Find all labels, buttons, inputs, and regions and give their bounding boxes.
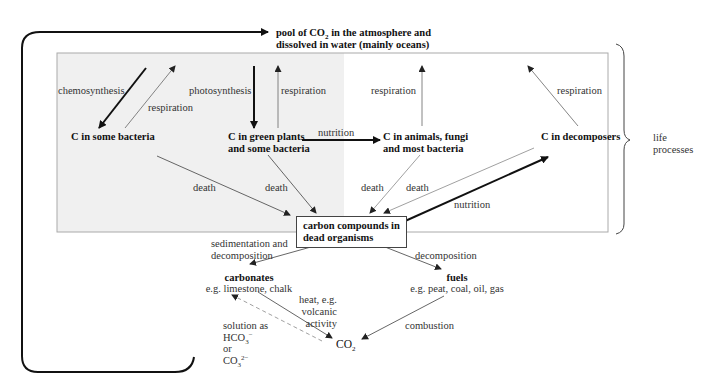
sedimentation-line2: decomposition	[211, 250, 273, 261]
animals-line2: and most bacteria	[383, 143, 464, 154]
solution-or: or	[223, 343, 232, 354]
label-respiration-bacteria: respiration	[148, 102, 193, 114]
label-death-decomposers: death	[406, 182, 429, 194]
green-plants-line2: and some bacteria	[228, 143, 310, 154]
label-death-bacteria: death	[193, 182, 216, 194]
node-co2: CO2	[336, 338, 355, 350]
life-line2: processes	[653, 144, 693, 155]
label-nutrition-decomposers: nutrition	[454, 199, 490, 211]
label-solution: solution as HCO3− or CO32−	[223, 320, 268, 366]
label-respiration-decomposers: respiration	[557, 85, 602, 97]
dead-organisms-box: carbon compounds in dead organisms	[296, 216, 407, 248]
pool-text-line2: dissolved in water (mainly oceans)	[276, 39, 429, 50]
co2-subscript: 2	[352, 345, 356, 353]
co3-subscript: 3	[238, 361, 242, 369]
label-heat: heat, e.g. volcanic activity	[295, 294, 337, 330]
label-respiration-plants: respiration	[281, 85, 326, 97]
animals-line1: C in animals, fungi	[383, 131, 468, 142]
pool-text: pool of CO	[276, 27, 325, 38]
label-photosynthesis: photosynthesis	[189, 85, 251, 97]
node-animals: C in animals, fungi and most bacteria	[383, 131, 468, 155]
label-combustion: combustion	[405, 320, 454, 332]
hco3-subscript: 3	[245, 338, 249, 346]
co2-pool-node: pool of CO2 in the atmosphere and dissol…	[276, 27, 431, 51]
label-decomposition: decomposition	[415, 250, 477, 262]
life-line1: life	[653, 132, 667, 143]
node-some-bacteria: C in some bacteria	[71, 131, 155, 143]
node-green-plants: C in green plants and some bacteria	[228, 131, 310, 155]
label-life-processes: life processes	[653, 132, 693, 156]
carbonates-example: e.g. limestone, chalk	[199, 283, 299, 295]
label-death-animals: death	[361, 182, 384, 194]
dead-organisms-line2: dead organisms	[303, 232, 373, 243]
combustion-arrow	[362, 296, 444, 339]
label-respiration-animals: respiration	[371, 85, 416, 97]
green-plants-line1: C in green plants	[228, 131, 305, 142]
heat-line1: heat, e.g.	[299, 294, 337, 305]
fuels-example: e.g. peat, coal, oil, gas	[397, 283, 517, 295]
sedimentation-line1: sedimentation and	[211, 238, 288, 249]
fuels-title: fuels	[447, 272, 468, 283]
co3-superscript: 2−	[241, 353, 248, 361]
heat-line2: volcanic	[301, 306, 337, 317]
node-decomposers: C in decomposers	[541, 131, 620, 143]
dead-organisms-line1: carbon compounds in	[303, 220, 400, 231]
label-death-plants: death	[265, 182, 288, 194]
label-chemosynthesis: chemosynthesis	[58, 85, 125, 97]
carbonates-title: carbonates	[225, 272, 274, 283]
carbon-cycle-diagram	[0, 0, 716, 392]
pool-text-rest: in the atmosphere and	[329, 27, 431, 38]
heat-line3: activity	[306, 318, 338, 329]
co2-text: CO	[336, 338, 352, 350]
hco3-superscript: −	[249, 330, 253, 338]
solution-hco3: HCO	[223, 332, 245, 343]
label-sedimentation: sedimentation and decomposition	[211, 238, 288, 262]
label-nutrition-plants-animals: nutrition	[318, 127, 354, 139]
solution-co3: CO	[223, 355, 238, 366]
solution-line1: solution as	[223, 320, 268, 331]
